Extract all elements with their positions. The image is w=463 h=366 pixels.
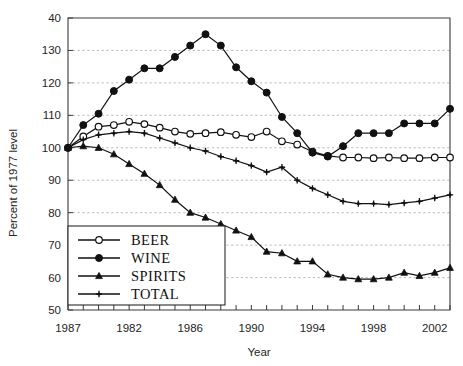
legend-label-spirits: SPIRITS <box>131 268 186 284</box>
chart-legend: BEERWINESPIRITSTOTAL <box>68 226 225 305</box>
data-point <box>447 105 454 112</box>
x-tick-label: 1990 <box>239 322 265 334</box>
data-point <box>447 264 454 270</box>
data-point <box>279 138 286 145</box>
data-point <box>263 128 270 135</box>
data-point <box>370 155 377 162</box>
data-point <box>386 201 392 207</box>
y-tick-label: 120 <box>42 77 61 89</box>
data-point <box>233 158 239 164</box>
y-tick-label: 60 <box>48 272 61 284</box>
y-tick-label: 130 <box>42 44 61 56</box>
data-point <box>202 31 209 38</box>
data-point <box>294 130 301 137</box>
series-line-wine <box>68 34 450 156</box>
data-point <box>95 123 102 130</box>
data-point <box>370 130 377 137</box>
y-axis-title: Percent of 1977 level <box>7 129 19 237</box>
data-point <box>80 143 87 149</box>
x-tick-label: 1998 <box>361 322 387 334</box>
y-tick-label: 70 <box>48 239 61 251</box>
data-point <box>432 195 438 201</box>
data-point <box>309 149 316 156</box>
legend-marker-wine <box>96 255 103 262</box>
data-point <box>294 141 301 148</box>
data-point <box>355 200 361 206</box>
data-point <box>263 89 270 96</box>
legend-label-total: TOTAL <box>131 286 179 302</box>
data-point <box>233 64 240 71</box>
data-point <box>248 78 255 85</box>
series-line-beer <box>68 122 450 158</box>
data-point <box>218 129 225 136</box>
data-point <box>126 160 133 166</box>
data-point <box>355 130 362 137</box>
data-point <box>401 200 407 206</box>
data-point <box>217 42 224 49</box>
data-point <box>386 154 393 161</box>
data-point <box>340 198 346 204</box>
data-point <box>187 42 194 49</box>
data-point <box>340 154 347 161</box>
data-point <box>80 122 87 129</box>
legend-label-wine: WINE <box>131 250 170 266</box>
series-total <box>65 128 453 207</box>
data-point <box>171 53 178 60</box>
data-point <box>325 192 331 198</box>
data-point <box>263 169 269 175</box>
data-point <box>233 132 240 139</box>
data-point <box>141 130 147 136</box>
data-point <box>416 198 422 204</box>
data-point <box>126 76 133 83</box>
line-chart: 401301201101009080706050 198719821986199… <box>0 0 463 366</box>
x-axis-ticks: 1987198219861990199419982002 <box>55 305 450 334</box>
x-tick-label: 1987 <box>55 322 81 334</box>
data-point <box>447 192 453 198</box>
data-point <box>95 132 101 138</box>
data-point <box>431 120 438 127</box>
data-point <box>156 124 163 131</box>
y-tick-label: 90 <box>48 174 61 186</box>
data-point <box>401 120 408 127</box>
data-point <box>172 140 178 146</box>
data-point <box>110 88 117 95</box>
x-tick-label: 1994 <box>300 322 326 334</box>
data-point <box>156 181 163 187</box>
data-point <box>202 130 209 137</box>
legend-marker-beer <box>96 237 103 244</box>
data-point <box>95 110 102 117</box>
data-point <box>278 113 285 120</box>
x-tick-label: 2002 <box>422 322 448 334</box>
data-point <box>202 148 208 154</box>
data-point <box>156 65 163 72</box>
data-point <box>248 162 254 168</box>
series-line-total <box>68 132 450 205</box>
y-tick-label: 100 <box>42 142 61 154</box>
data-point <box>324 153 331 160</box>
y-tick-label: 50 <box>48 304 61 316</box>
x-tick-label: 1986 <box>177 322 203 334</box>
data-point <box>141 121 148 128</box>
data-point <box>187 131 194 138</box>
data-point <box>111 130 117 136</box>
data-point <box>141 170 148 176</box>
chart-container: 401301201101009080706050 198719821986199… <box>0 0 463 366</box>
data-point <box>355 154 362 161</box>
data-point <box>172 128 179 135</box>
data-point <box>385 130 392 137</box>
data-point <box>126 119 133 126</box>
x-axis-title: Year <box>247 346 270 358</box>
data-point <box>401 269 408 275</box>
data-point <box>431 154 438 161</box>
data-point <box>126 128 132 134</box>
data-point <box>218 153 224 159</box>
y-tick-label: 40 <box>48 12 61 24</box>
series-beer <box>65 119 454 162</box>
data-point <box>309 185 315 191</box>
y-tick-label: 80 <box>48 207 61 219</box>
data-point <box>156 135 162 141</box>
data-point <box>248 134 255 141</box>
y-tick-label: 110 <box>43 109 61 121</box>
data-point <box>447 154 454 161</box>
data-point <box>370 200 376 206</box>
